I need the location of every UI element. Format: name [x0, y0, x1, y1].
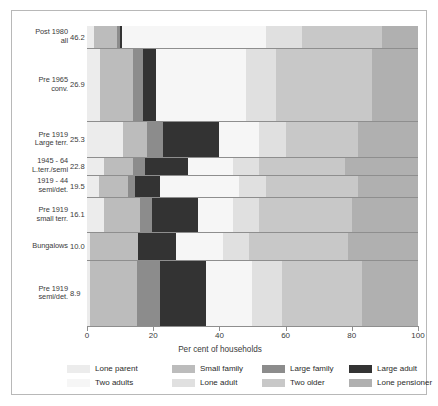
bar-row — [87, 232, 418, 261]
legend-label: Two older — [290, 378, 325, 388]
bar-segment — [198, 197, 233, 232]
bar-row-separator — [87, 175, 418, 176]
legend-item: Small family — [172, 364, 243, 374]
bar-segment — [358, 121, 418, 156]
y-axis-category-label: Pre 1919 semi/det. — [14, 285, 68, 302]
legend-swatch — [262, 379, 285, 387]
bar-segment — [133, 48, 143, 122]
bar-row — [87, 48, 418, 122]
bar-row-separator — [87, 48, 418, 49]
bar-row — [87, 121, 418, 156]
bar-segment — [345, 157, 418, 175]
bar-row — [87, 157, 418, 175]
bar-segment — [246, 48, 276, 122]
bar-segment — [104, 157, 134, 175]
y-axis-category-label: Post 1980 all — [14, 28, 68, 45]
bar-segment — [87, 197, 104, 232]
bar-segment — [176, 232, 222, 261]
bar-segment — [156, 48, 245, 122]
bar-segment — [233, 197, 259, 232]
bar-segment — [223, 232, 249, 261]
bar-segment — [138, 232, 176, 261]
bar-segment — [123, 121, 146, 156]
x-axis-tick-label: 60 — [271, 331, 301, 340]
x-axis-tick-label: 20 — [138, 331, 168, 340]
chart-legend: Lone parentSmall familyLarge familyLarge… — [12, 362, 428, 394]
bar-segment — [358, 175, 418, 198]
legend-item: Two adults — [67, 378, 133, 388]
bar-row-separator — [87, 157, 418, 158]
legend-item: Lone parent — [67, 364, 138, 374]
figure-frame: Post 1980 allPre 1965 conv.Pre 1919 Larg… — [11, 10, 427, 395]
y-axis-value-label: 19.5 — [70, 182, 86, 191]
bar-segment — [276, 48, 372, 122]
legend-label: Two adults — [95, 378, 133, 388]
bar-segment — [87, 26, 94, 48]
bar-segment — [94, 26, 117, 48]
legend-item: Large adult — [349, 364, 417, 374]
y-axis-value-label: 26.9 — [70, 80, 86, 89]
y-axis-value-label: 46.2 — [70, 33, 86, 42]
bar-segment — [90, 232, 138, 261]
bar-segment — [104, 197, 140, 232]
bar-row-separator — [87, 260, 418, 261]
legend-swatch — [172, 365, 195, 373]
bar-segment — [206, 260, 252, 326]
x-axis-line — [87, 326, 419, 327]
legend-swatch — [349, 365, 372, 373]
legend-label: Lone adult — [200, 378, 237, 388]
x-axis-title: Per cent of households — [12, 345, 428, 354]
bar-segment — [259, 197, 352, 232]
bar-segment — [87, 48, 100, 122]
bar-segment — [147, 121, 164, 156]
legend-swatch — [67, 365, 90, 373]
bar-segment — [87, 121, 123, 156]
bar-segment — [372, 48, 418, 122]
x-axis-tick-label: 80 — [337, 331, 367, 340]
legend-label: Lone parent — [95, 364, 138, 374]
legend-swatch — [67, 379, 90, 387]
bar-segment — [160, 260, 206, 326]
bar-segment — [362, 260, 418, 326]
bar-segment — [259, 157, 345, 175]
x-axis-tick-label: 0 — [72, 331, 102, 340]
x-axis-tick-label: 100 — [403, 331, 433, 340]
legend-item: Lone pensioner — [349, 378, 432, 388]
bar-row — [87, 175, 418, 198]
y-axis-category-label: Pre 1919 Large terr. — [14, 131, 68, 148]
y-axis-category-label: Bungalows — [14, 242, 68, 251]
bar-segment — [100, 48, 133, 122]
y-axis-value-label: 10.0 — [70, 242, 86, 251]
legend-label: Large family — [290, 364, 334, 374]
bar-segment — [259, 121, 285, 156]
x-axis-tick-label: 40 — [204, 331, 234, 340]
bar-segment — [133, 157, 145, 175]
y-axis-value-label: 25.3 — [70, 135, 86, 144]
bar-row — [87, 197, 418, 232]
bar-segment — [252, 260, 282, 326]
y-axis-category-label: 1945 - 64 L.terr./semi — [14, 157, 68, 174]
bar-segment — [382, 26, 418, 48]
bar-segment — [137, 260, 160, 326]
legend-item: Lone adult — [172, 378, 237, 388]
bar-segment — [233, 157, 259, 175]
bar-segment — [99, 175, 129, 198]
bar-segment — [140, 197, 152, 232]
bar-segment — [163, 121, 219, 156]
y-axis-category-label: 1919 - 44 semi/det. — [14, 177, 68, 194]
legend-swatch — [262, 365, 285, 373]
bar-segment — [352, 197, 418, 232]
bar-segment — [135, 175, 160, 198]
bar-segment — [87, 157, 104, 175]
y-axis-value-label: 22.8 — [70, 162, 86, 171]
legend-label: Small family — [200, 364, 243, 374]
bar-segment — [266, 26, 302, 48]
bar-segment — [145, 157, 188, 175]
bar-segment — [152, 197, 198, 232]
legend-swatch — [349, 379, 372, 387]
legend-swatch — [172, 379, 195, 387]
bar-segment — [239, 175, 265, 198]
bar-segment — [302, 26, 381, 48]
bar-segment — [286, 121, 359, 156]
y-axis-value-label: 8.9 — [70, 289, 86, 298]
